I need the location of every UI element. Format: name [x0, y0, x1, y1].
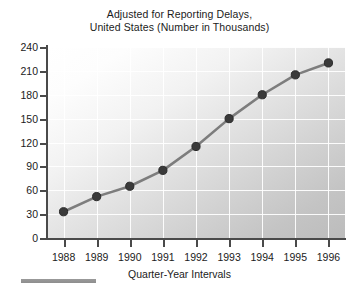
y-axis-tick-label: 60 [0, 185, 38, 195]
data-point [126, 182, 134, 190]
chart-title-line-2: United States (Number in Thousands) [0, 21, 359, 34]
chart-title: Adjusted for Reporting Delays, United St… [0, 8, 359, 34]
series-markers [59, 59, 332, 216]
x-axis-tick-label: 1996 [305, 252, 351, 263]
data-point [159, 166, 167, 174]
x-axis-tick [196, 240, 198, 247]
x-axis-tick [97, 240, 99, 247]
y-axis-tick [40, 95, 47, 97]
y-axis-tick-label: 0 [0, 233, 38, 243]
x-axis-tick [163, 240, 165, 247]
y-axis-tick [40, 214, 47, 216]
x-axis-tick [130, 240, 132, 247]
data-point [93, 193, 101, 201]
y-axis-tick-label: 120 [0, 138, 38, 148]
x-axis-tick [262, 240, 264, 247]
data-point [258, 91, 266, 99]
y-axis-tick-label: 210 [0, 66, 38, 76]
chart-title-line-1: Adjusted for Reporting Delays, [0, 8, 359, 21]
y-axis-tick [40, 47, 47, 49]
data-point [59, 208, 67, 216]
x-axis-tick [328, 240, 330, 247]
data-point [291, 71, 299, 79]
y-axis-tick-label: 90 [0, 161, 38, 171]
y-axis-tick-label: 240 [0, 42, 38, 52]
chart-figure: Adjusted for Reporting Delays, United St… [0, 0, 359, 292]
y-axis-tick [40, 143, 47, 145]
data-series-layer [47, 47, 345, 238]
data-point [225, 115, 233, 123]
y-axis-tick [40, 71, 47, 73]
x-axis-tick [295, 240, 297, 247]
footer-rule [21, 279, 96, 283]
x-axis-tick [64, 240, 66, 247]
data-point [324, 59, 332, 67]
y-axis-tick-label: 180 [0, 90, 38, 100]
y-axis-tick-label: 30 [0, 209, 38, 219]
y-axis-tick [40, 166, 47, 168]
plot-area [47, 47, 345, 238]
series-line [64, 63, 329, 212]
y-axis-tick-label: 150 [0, 114, 38, 124]
data-point [192, 142, 200, 150]
y-axis-tick [40, 190, 47, 192]
y-axis-tick [40, 238, 47, 240]
x-axis-tick [229, 240, 231, 247]
y-axis-tick [40, 119, 47, 121]
